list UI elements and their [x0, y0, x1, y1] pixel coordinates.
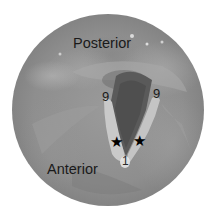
left-fold-marker-label: 9 — [102, 90, 109, 103]
posterior-label: Posterior — [73, 36, 131, 51]
star-icon-left: ★ — [110, 134, 123, 149]
star-icon-right: ★ — [133, 133, 146, 148]
commissure-marker-label: 1 — [122, 155, 129, 167]
anterior-label: Anterior — [47, 162, 98, 177]
right-fold-marker-label: 9 — [153, 87, 160, 100]
